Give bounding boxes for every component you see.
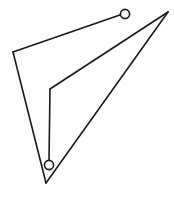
drawing-canvas — [0, 0, 174, 200]
canvas-background — [0, 0, 174, 200]
inner-vertical-path — [49, 89, 50, 160]
line-drawing-figure — [0, 0, 174, 200]
top-node-marker-icon — [120, 9, 129, 18]
bottom-node-marker-icon — [44, 160, 53, 169]
